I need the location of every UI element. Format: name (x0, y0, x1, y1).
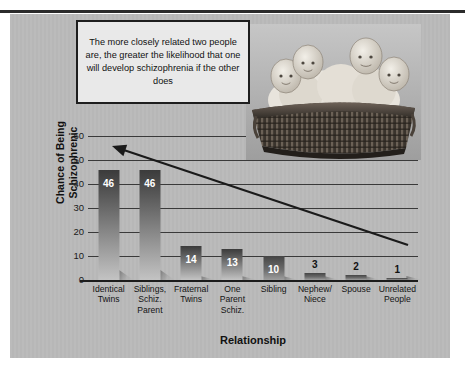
category-label-line: Parent (206, 294, 258, 304)
bar-value-label: 2 (353, 261, 359, 272)
bar-value-label: 10 (268, 264, 279, 275)
bar-value-label: 46 (144, 178, 155, 189)
y-tick-label: 40 (54, 178, 84, 189)
bar-group: 46 (88, 136, 129, 280)
y-tick-label: 20 (54, 226, 84, 237)
bar[interactable] (346, 275, 367, 280)
category-label-line: Schiz. (206, 305, 258, 315)
y-tick-label: 50 (54, 154, 84, 165)
babies-photo (246, 24, 421, 160)
category-label: UnrelatedPeople (371, 284, 423, 305)
y-tick-label: 10 (54, 250, 84, 261)
caption-text: The more closely related two people are,… (78, 36, 248, 89)
bar[interactable] (304, 273, 325, 280)
bar-value-label: 1 (395, 264, 401, 275)
top-rule (0, 10, 465, 13)
y-axis-ticks: 6050403020100 (50, 136, 84, 280)
bar-value-label: 13 (227, 257, 238, 268)
bar-value-label: 46 (103, 178, 114, 189)
figure-root: The more closely related two people are,… (0, 0, 465, 376)
bar-value-label: 14 (186, 254, 197, 265)
bar-group: 46 (129, 136, 170, 280)
y-tick-label: 60 (54, 130, 84, 141)
caption-box: The more closely related two people are,… (76, 20, 250, 104)
bar-group: 14 (171, 136, 212, 280)
category-label-line: Parent (124, 305, 176, 315)
bar[interactable] (387, 278, 408, 280)
category-label-line: Niece (289, 294, 341, 304)
bar-value-label: 3 (312, 259, 318, 270)
x-axis-title: Relationship (88, 334, 418, 346)
x-axis-baseline (80, 280, 418, 282)
y-tick-label: 30 (54, 202, 84, 213)
category-label-line: People (371, 294, 423, 304)
category-label-line: Unrelated (371, 284, 423, 294)
